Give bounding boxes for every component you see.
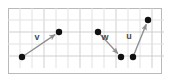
vector-labels-group: vwu bbox=[34, 31, 131, 42]
endpoint-dot bbox=[130, 54, 136, 60]
vector-arrow-v bbox=[25, 35, 55, 56]
vector-label-w: w bbox=[100, 32, 109, 42]
endpoint-dot bbox=[145, 17, 151, 23]
diagram-canvas: vwu bbox=[0, 0, 170, 81]
endpoint-dot bbox=[95, 29, 101, 35]
endpoint-dot bbox=[56, 29, 62, 35]
vector-label-v: v bbox=[34, 32, 39, 42]
vector-label-u: u bbox=[126, 31, 132, 41]
endpoint-dot bbox=[118, 54, 124, 60]
endpoint-dot bbox=[19, 54, 25, 60]
vector-diagram-figure: vwu bbox=[0, 0, 170, 81]
